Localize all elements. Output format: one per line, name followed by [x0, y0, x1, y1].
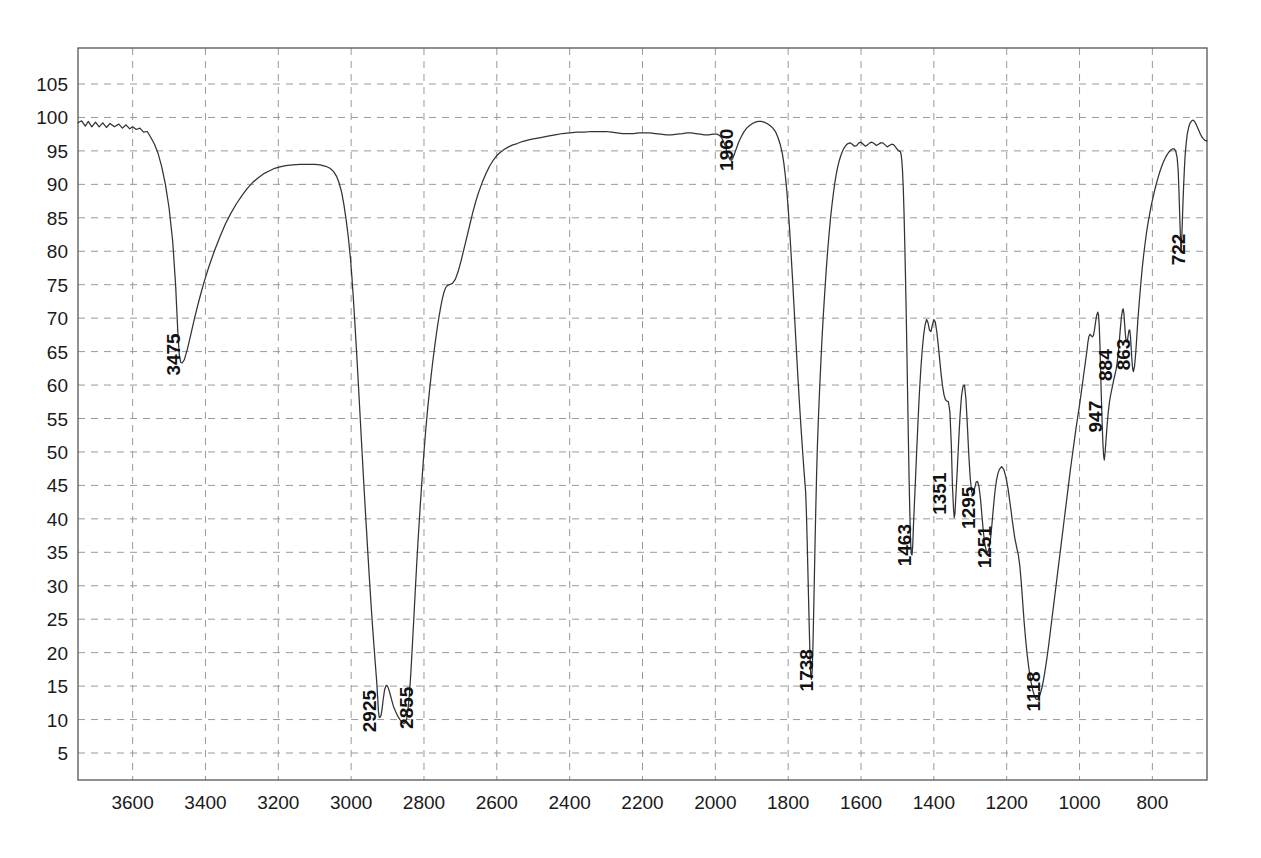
peak-label-1960: 1960: [716, 129, 737, 171]
x-tick-label: 1200: [986, 792, 1028, 813]
y-tick-label: 30: [47, 576, 68, 597]
y-tick-label: 20: [47, 643, 68, 664]
y-tick-label: 95: [47, 141, 68, 162]
y-tick-label: 70: [47, 308, 68, 329]
peak-label-1118: 1118: [1023, 671, 1044, 711]
x-tick-label: 2600: [476, 792, 518, 813]
x-tick-label: 3200: [257, 792, 299, 813]
peak-label-1351: 1351: [929, 472, 950, 515]
x-tick-label: 3400: [184, 792, 226, 813]
x-tick-label: 1400: [913, 792, 955, 813]
x-tick-label: 2200: [621, 792, 663, 813]
y-tick-label: 60: [47, 375, 68, 396]
peak-label-1295: 1295: [958, 486, 979, 529]
y-tick-label: 105: [36, 74, 68, 95]
x-tick-label: 3600: [111, 792, 153, 813]
y-tick-label: 65: [47, 342, 68, 363]
x-tick-label: 1600: [840, 792, 882, 813]
y-tick-label: 15: [47, 676, 68, 697]
y-tick-label: 55: [47, 409, 68, 430]
peak-label-3475: 3475: [163, 333, 184, 376]
y-tick-label: 100: [36, 107, 68, 128]
y-tick-label: 80: [47, 241, 68, 262]
x-tick-label: 800: [1137, 792, 1169, 813]
y-tick-label: 50: [47, 442, 68, 463]
peak-label-1738: 1738: [796, 649, 817, 691]
y-tick-label: 45: [47, 475, 68, 496]
peak-label-2855: 2855: [396, 686, 417, 729]
peak-label-947: 947: [1085, 401, 1106, 433]
y-tick-label: 25: [47, 609, 68, 630]
y-tick-label: 85: [47, 208, 68, 229]
peak-label-863: 863: [1113, 339, 1134, 371]
peak-label-1251: 1251: [974, 526, 995, 569]
peak-label-2925: 2925: [359, 689, 380, 732]
chart-background: [0, 0, 1261, 858]
x-tick-label: 2400: [549, 792, 591, 813]
x-tick-label: 3000: [330, 792, 372, 813]
y-tick-label: 5: [57, 743, 68, 764]
ir-spectrum-page: 5101520253035404550556065707580859095100…: [0, 0, 1261, 858]
y-tick-label: 35: [47, 542, 68, 563]
y-tick-label: 75: [47, 275, 68, 296]
x-tick-label: 2000: [694, 792, 736, 813]
y-tick-label: 10: [47, 710, 68, 731]
y-tick-label: 90: [47, 174, 68, 195]
y-tick-label: 40: [47, 509, 68, 530]
x-tick-label: 2800: [403, 792, 445, 813]
ir-spectrum-chart: 5101520253035404550556065707580859095100…: [0, 0, 1261, 858]
x-tick-label: 1000: [1058, 792, 1100, 813]
peak-label-1463: 1463: [894, 524, 915, 566]
x-axis-tick-labels: 3600340032003000280026002400220020001800…: [111, 792, 1168, 813]
x-tick-label: 1800: [767, 792, 809, 813]
peak-label-722: 722: [1168, 234, 1189, 266]
